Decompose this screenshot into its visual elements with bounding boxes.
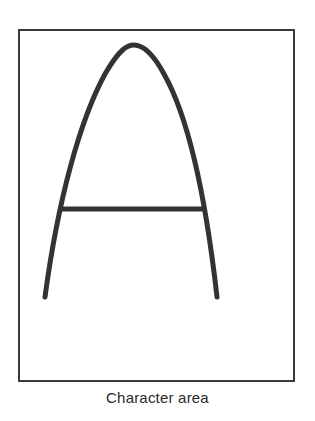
letter-a-arch-stroke	[45, 45, 217, 297]
letter-a-glyph	[45, 45, 217, 297]
figure-caption: Character area	[0, 389, 315, 406]
character-area-diagram	[0, 0, 315, 421]
